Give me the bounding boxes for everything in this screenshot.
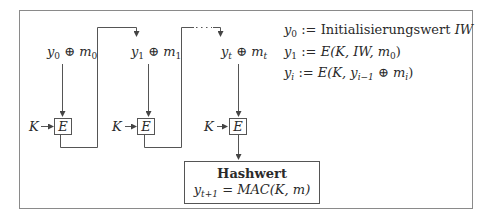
encrypt-block-1: E: [137, 118, 155, 135]
key-label-1: K: [112, 120, 122, 134]
encrypt-block-t: E: [229, 118, 247, 135]
key-label-t: K: [204, 120, 214, 134]
cbc-mac-diagram: y0 ⊕ m0 y1 ⊕ m1 yt ⊕ mt K K K E E E Hash…: [0, 0, 486, 222]
stage-input-1: y1 ⊕ m1: [131, 45, 181, 63]
definition-y1: y1 := E(K, IW, m0): [284, 45, 401, 63]
definition-y0: y0 := Initialisierungswert IW: [284, 23, 473, 41]
hashwert-output-box: Hashwert yt+1 = MAC(K, m): [184, 161, 320, 204]
hashwert-title: Hashwert: [185, 166, 319, 182]
hashwert-formula: yt+1 = MAC(K, m): [185, 182, 319, 202]
stage-input-t: yt ⊕ mt: [221, 45, 267, 63]
key-label-0: K: [29, 120, 39, 134]
definition-yi: yi := E(K, yi−1 ⊕ mi): [284, 66, 413, 84]
encrypt-block-0: E: [54, 118, 72, 135]
stage-input-0: y0 ⊕ m0: [47, 45, 97, 63]
